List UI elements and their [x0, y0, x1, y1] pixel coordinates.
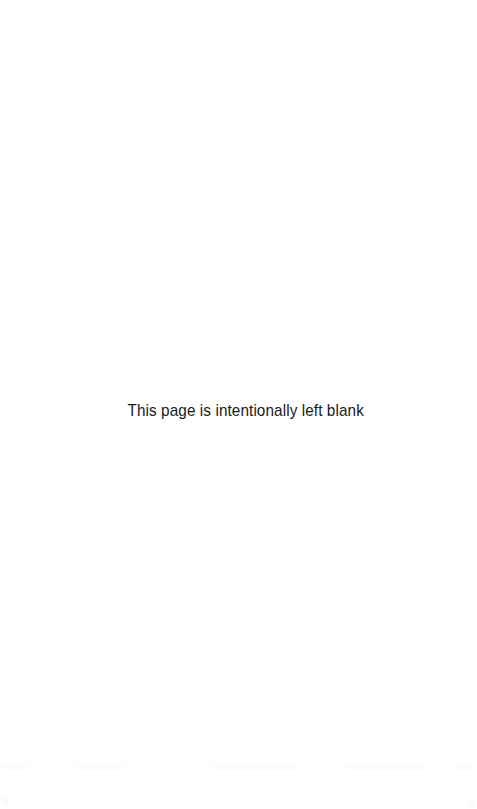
scan-artifact — [2, 763, 28, 770]
scan-artifact — [346, 763, 426, 770]
blank-page: This page is intentionally left blank — [0, 0, 477, 809]
corner-artifact — [468, 797, 475, 806]
scan-artifact — [212, 763, 296, 770]
footer-artifacts — [0, 763, 477, 779]
blank-page-notice: This page is intentionally left blank — [24, 401, 453, 421]
scan-artifact — [455, 763, 475, 770]
corner-artifact — [2, 797, 9, 806]
scan-artifact — [76, 763, 124, 770]
scan-artifact — [394, 763, 412, 770]
